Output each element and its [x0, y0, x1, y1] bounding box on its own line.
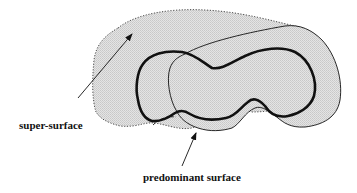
predominant-surface-label: predominant surface — [143, 172, 241, 183]
surface-diagram — [0, 0, 357, 193]
super-surface-label: super-surface — [19, 120, 83, 131]
predominant-surface-arrow — [182, 133, 196, 166]
